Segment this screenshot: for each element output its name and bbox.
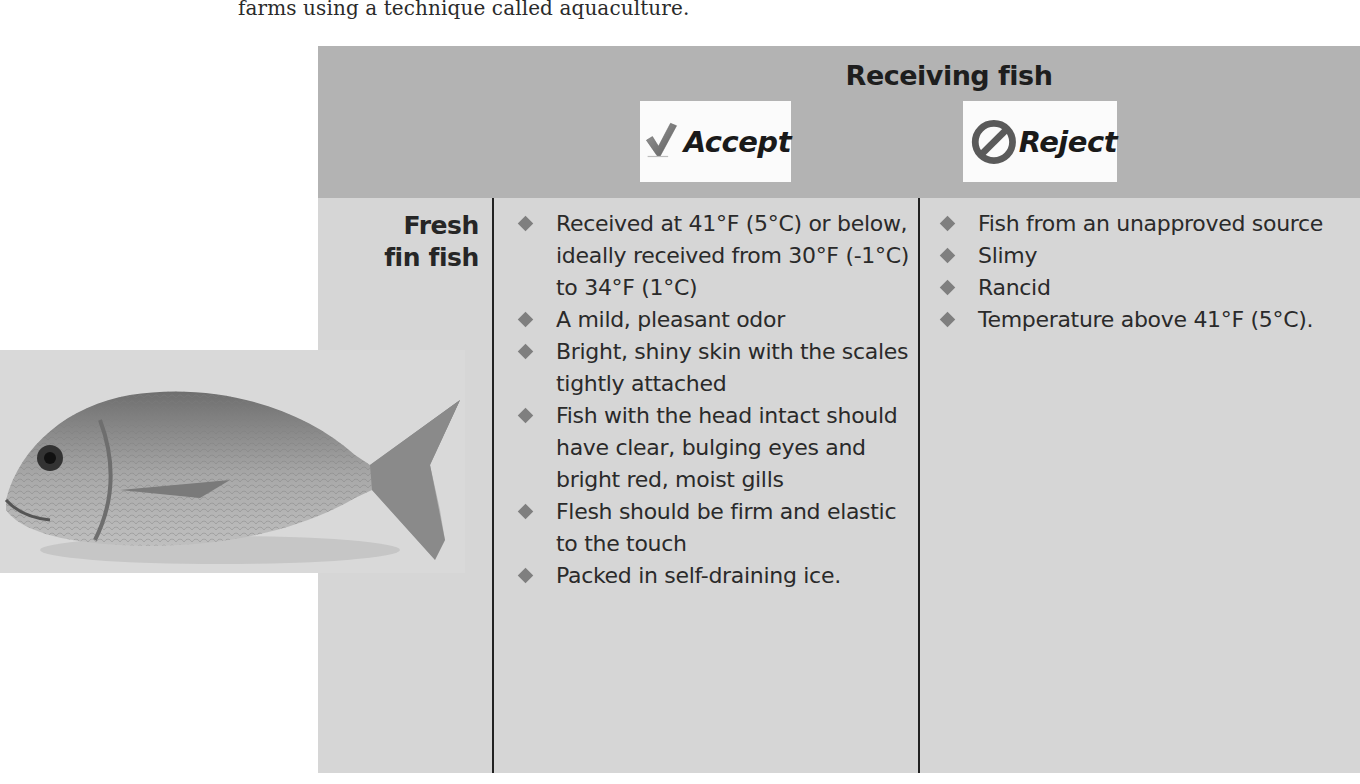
accept-criteria-list: Received at 41°F (5°C) or below, ideally…	[516, 208, 916, 592]
row-label-fresh-fin-fish: Fresh fin fish	[318, 210, 479, 274]
list-item: Slimy	[938, 240, 1348, 272]
reject-criteria-list: Fish from an unapproved source Slimy Ran…	[938, 208, 1348, 336]
diamond-bullet-icon	[518, 504, 534, 520]
checkmark-icon	[644, 107, 678, 171]
fish-illustration	[0, 350, 465, 573]
reject-column-header: Reject	[963, 101, 1117, 182]
diamond-bullet-icon	[518, 408, 534, 424]
list-item: A mild, pleasant odor	[516, 304, 916, 336]
receiving-fish-table: Receiving fish Accept Reject	[318, 46, 1360, 773]
list-item: Bright, shiny skin with the scales tight…	[516, 336, 916, 400]
list-item-text: Bright, shiny skin with the scales tight…	[556, 339, 908, 396]
list-item: Fish from an unapproved source	[938, 208, 1348, 240]
list-item: Rancid	[938, 272, 1348, 304]
list-item-text: Flesh should be firm and elastic to the …	[556, 499, 896, 556]
diamond-bullet-icon	[940, 216, 956, 232]
table-header: Receiving fish Accept Reject	[318, 46, 1360, 198]
list-item: Temperature above 41°F (5°C).	[938, 304, 1348, 336]
accept-label: Accept	[684, 125, 791, 159]
table-title: Receiving fish	[318, 60, 1360, 91]
list-item-text: Fish from an unapproved source	[978, 211, 1323, 236]
column-divider	[918, 198, 920, 773]
intro-paragraph-fragment: farms using a technique called aquacultu…	[238, 0, 689, 20]
list-item-text: Slimy	[978, 243, 1037, 268]
table-body: Fresh fin fish Received at 41°F (5°C) or…	[318, 198, 1360, 773]
column-divider	[492, 198, 494, 773]
diamond-bullet-icon	[940, 312, 956, 328]
row-label-line: Fresh	[318, 210, 479, 242]
list-item-text: Packed in self-draining ice.	[556, 563, 841, 588]
diamond-bullet-icon	[518, 216, 534, 232]
list-item: Flesh should be firm and elastic to the …	[516, 496, 916, 560]
no-entry-icon	[971, 115, 1017, 169]
list-item: Fish with the head intact should have cl…	[516, 400, 916, 496]
list-item-text: A mild, pleasant odor	[556, 307, 785, 332]
accept-column-header: Accept	[640, 101, 791, 182]
diamond-bullet-icon	[940, 248, 956, 264]
diamond-bullet-icon	[518, 344, 534, 360]
list-item: Packed in self-draining ice.	[516, 560, 916, 592]
list-item-text: Temperature above 41°F (5°C).	[978, 307, 1313, 332]
diamond-bullet-icon	[518, 312, 534, 328]
diamond-bullet-icon	[940, 280, 956, 296]
list-item-text: Fish with the head intact should have cl…	[556, 403, 897, 492]
list-item-text: Received at 41°F (5°C) or below, ideally…	[556, 211, 909, 300]
list-item: Received at 41°F (5°C) or below, ideally…	[516, 208, 916, 304]
reject-label: Reject	[1019, 125, 1117, 159]
list-item-text: Rancid	[978, 275, 1051, 300]
diamond-bullet-icon	[518, 568, 534, 584]
fish-photo	[0, 350, 465, 573]
row-label-line: fin fish	[318, 242, 479, 274]
